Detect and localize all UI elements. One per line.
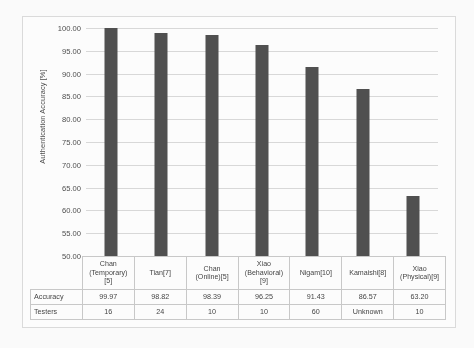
- chart-area: Authentication Accuracy [%] 100.0095.009…: [22, 16, 456, 328]
- table-cell-accuracy: 98.82: [134, 290, 186, 305]
- table-cell-testers: 10: [238, 305, 290, 320]
- table-cell-category: Xiao(Behavioral)[9]: [238, 257, 290, 290]
- category-label-line: (Behavioral): [240, 269, 289, 277]
- table-cell-category: Chan(Temporary)[5]: [82, 257, 134, 290]
- table-cell-testers: 60: [290, 305, 342, 320]
- table-cell-accuracy: 91.43: [290, 290, 342, 305]
- bar-slot: [287, 28, 337, 256]
- bar: [255, 45, 268, 256]
- table-cell-accuracy: 63.20: [394, 290, 446, 305]
- y-axis-tick-label: 70.00: [62, 160, 81, 169]
- category-label-line: (Physical)[9]: [395, 273, 444, 281]
- category-label-line: [9]: [240, 277, 289, 285]
- bar-slot: [86, 28, 136, 256]
- table-cell-testers: 24: [134, 305, 186, 320]
- y-axis-tick-label: 65.00: [62, 183, 81, 192]
- y-axis-tick-label: 60.00: [62, 206, 81, 215]
- table-cell-category: Kamaishi[8]: [342, 257, 394, 290]
- bar-series: [86, 28, 438, 256]
- table-cell-accuracy: 98.39: [186, 290, 238, 305]
- category-label-line: Xiao: [240, 260, 289, 268]
- category-label-line: Nigam[10]: [291, 269, 340, 277]
- row-label-testers: Testers: [31, 305, 83, 320]
- bar-slot: [388, 28, 438, 256]
- bar: [155, 33, 168, 256]
- bar: [205, 35, 218, 256]
- plot-area: 100.0095.0090.0085.0080.0075.0070.0065.0…: [86, 28, 438, 256]
- category-label-line: Chan: [84, 260, 133, 268]
- category-label-line: (Temporary): [84, 269, 133, 277]
- bar: [356, 89, 369, 256]
- y-axis-tick-label: 85.00: [62, 92, 81, 101]
- bar-slot: [337, 28, 387, 256]
- bar-slot: [187, 28, 237, 256]
- bar-slot: [237, 28, 287, 256]
- table-cell-testers: Unknown: [342, 305, 394, 320]
- table-cell-category: Chan(Online)[5]: [186, 257, 238, 290]
- category-label-line: Kamaishi[8]: [343, 269, 392, 277]
- y-axis-tick-label: 75.00: [62, 138, 81, 147]
- table-cell-testers: 10: [394, 305, 446, 320]
- data-table: Chan(Temporary)[5]Tian[7]Chan(Online)[5]…: [30, 256, 446, 320]
- y-axis-tick-label: 80.00: [62, 115, 81, 124]
- y-axis-tick-label: 55.00: [62, 229, 81, 238]
- scanned-page: Authentication Accuracy [%] 100.0095.009…: [0, 0, 474, 348]
- bar: [306, 67, 319, 256]
- table-cell-category: Nigam[10]: [290, 257, 342, 290]
- category-label-line: [5]: [84, 277, 133, 285]
- category-label-line: (Online)[5]: [188, 273, 237, 281]
- table-row-accuracy: Accuracy 99.9798.8298.3996.2591.4386.576…: [31, 290, 446, 305]
- y-axis-tick-label: 100.00: [58, 24, 81, 33]
- table-cell-accuracy: 99.97: [82, 290, 134, 305]
- table-cell-testers: 16: [82, 305, 134, 320]
- y-axis-title: Authentication Accuracy [%]: [38, 37, 47, 197]
- table-cell-testers: 10: [186, 305, 238, 320]
- table-cell-category: Xiao(Physical)[9]: [394, 257, 446, 290]
- category-label-line: Tian[7]: [136, 269, 185, 277]
- bar: [406, 196, 419, 256]
- table-cell-category: Tian[7]: [134, 257, 186, 290]
- table-corner-cell: [31, 257, 83, 290]
- row-label-accuracy: Accuracy: [31, 290, 83, 305]
- category-label-line: Chan: [188, 265, 237, 273]
- category-label-line: Xiao: [395, 265, 444, 273]
- bar: [105, 28, 118, 256]
- table-row-categories: Chan(Temporary)[5]Tian[7]Chan(Online)[5]…: [31, 257, 446, 290]
- table-cell-accuracy: 96.25: [238, 290, 290, 305]
- bar-slot: [136, 28, 186, 256]
- y-axis-tick-label: 90.00: [62, 69, 81, 78]
- table-cell-accuracy: 86.57: [342, 290, 394, 305]
- table-row-testers: Testers 1624101060Unknown10: [31, 305, 446, 320]
- y-axis-tick-label: 95.00: [62, 46, 81, 55]
